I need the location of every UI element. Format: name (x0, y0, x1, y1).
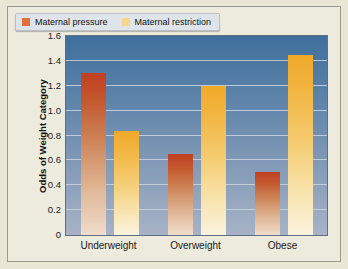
plot-area (65, 35, 328, 236)
y-axis-tick-label: 1.0 (13, 104, 61, 115)
legend-label: Maternal pressure (35, 17, 108, 27)
x-axis-ticks: UnderweightOverweightObese (65, 240, 328, 258)
legend-label: Maternal restriction (135, 17, 212, 27)
x-axis-tick-label: Obese (268, 240, 297, 251)
figure-frame: Maternal pressure Maternal restriction O… (7, 6, 341, 262)
y-axis-tick-label: 1.2 (13, 79, 61, 90)
gridline (66, 35, 327, 36)
bar-obese-pressure (255, 172, 280, 235)
legend-swatch-icon (22, 18, 30, 26)
bar-overweight-pressure (168, 154, 193, 235)
bar-overweight-restriction (201, 86, 226, 235)
y-axis-tick-label: 0.6 (13, 154, 61, 165)
x-axis-tick-label: Overweight (170, 240, 221, 251)
y-axis-tick-label: 0.2 (13, 204, 61, 215)
x-axis-tick-label: Underweight (80, 240, 136, 251)
bar-underweight-restriction (114, 131, 139, 235)
legend-item-maternal-restriction: Maternal restriction (122, 17, 212, 27)
bar-underweight-pressure (81, 73, 106, 235)
chart-figure: Maternal pressure Maternal restriction O… (0, 0, 348, 269)
y-axis-tick-label: 0.4 (13, 179, 61, 190)
bar-obese-restriction (288, 55, 313, 235)
y-axis-tick-label: 1.4 (13, 54, 61, 65)
legend-swatch-icon (122, 18, 130, 26)
y-axis-tick-label: 1.6 (13, 30, 61, 41)
y-axis-tick-label: 0.8 (13, 129, 61, 140)
y-axis-ticks: 00.20.40.60.81.01.21.41.6 (8, 35, 61, 236)
y-axis-tick-label: 0 (13, 229, 61, 240)
chart-legend: Maternal pressure Maternal restriction (15, 13, 220, 31)
legend-item-maternal-pressure: Maternal pressure (22, 17, 108, 27)
